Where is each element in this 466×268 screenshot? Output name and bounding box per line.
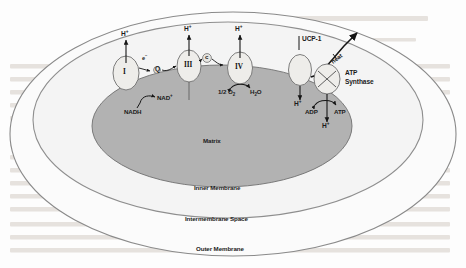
ucp1-label: UCP-1: [302, 36, 321, 43]
outer-membrane-label: Outer Membrane: [196, 246, 244, 252]
electron-label: e−: [142, 56, 147, 62]
water-label: H2O: [250, 89, 261, 95]
proton-complex-i-label: H+: [121, 31, 128, 38]
atp-synthase-label-line1: ATP: [345, 70, 357, 77]
complex-iv-label: IV: [235, 64, 243, 71]
proton-charge: +: [189, 24, 192, 29]
nad-text: NAD: [157, 94, 170, 101]
proton-charge: +: [327, 121, 330, 126]
complex-i-label: I: [123, 69, 126, 76]
proton-charge: +: [299, 99, 302, 104]
intermembrane-space-label: Intermembrane Space: [185, 216, 248, 222]
proton-ucp1-label: H+: [294, 101, 301, 108]
oxygen-coeff: 1/2 O: [218, 88, 233, 95]
matrix-label: Matrix: [203, 138, 221, 144]
cytochrome-c-label: c: [205, 54, 208, 60]
mitochondrion-diagram: [0, 0, 466, 268]
nad-plus-label: NAD+: [157, 95, 173, 101]
nadh-label: NADH: [124, 109, 141, 115]
proton-complex-iii-label: H+: [184, 26, 191, 33]
adp-label: ADP: [305, 109, 318, 115]
half-oxygen-label: 1/2 O2: [218, 89, 235, 95]
figure-canvas: I III IV Q c e− H+ H+ H+ H+ H+ NADH NAD+…: [0, 0, 466, 268]
complex-iii-label: III: [184, 62, 192, 69]
proton-charge: +: [126, 29, 129, 34]
proton-atp-synthase-label: H+: [322, 123, 329, 130]
proton-charge: +: [240, 24, 243, 29]
oxygen-sub: 2: [233, 92, 235, 97]
ucp1-protein: [289, 55, 312, 86]
nad-charge: +: [170, 93, 173, 98]
atp-label: ATP: [334, 109, 346, 115]
water-o: O: [257, 88, 262, 95]
ubiquinone-label: Q: [155, 66, 160, 73]
atp-synthase-label-line2: Synthase: [345, 79, 374, 86]
proton-complex-iv-label: H+: [235, 26, 242, 33]
inner-membrane-label: Inner Membrane: [194, 185, 240, 191]
electron-charge: −: [145, 53, 147, 58]
